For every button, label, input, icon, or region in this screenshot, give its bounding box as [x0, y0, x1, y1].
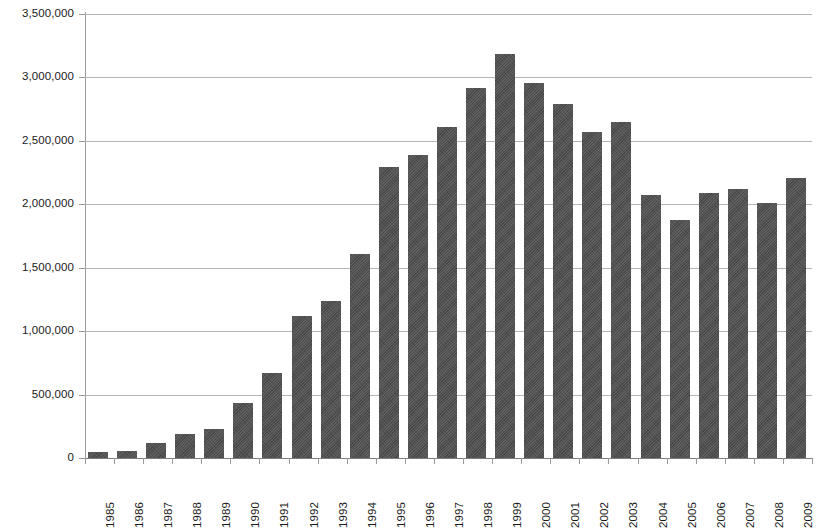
bar [292, 316, 312, 458]
y-axis-tick [79, 395, 85, 396]
bar [321, 301, 341, 458]
bar [233, 403, 253, 458]
y-axis-tick-label: 500,000 [0, 389, 74, 401]
bar [350, 254, 370, 458]
bar [495, 54, 515, 458]
x-axis-tick-label: 1999 [511, 502, 523, 532]
x-axis-tick-label: 2009 [802, 502, 814, 532]
bar [757, 203, 777, 458]
x-axis-tick-label: 2007 [744, 502, 756, 532]
plot-area [85, 14, 812, 458]
x-axis-tick-label: 2005 [686, 502, 698, 532]
y-axis-tick [79, 458, 85, 459]
bar [728, 189, 748, 458]
x-axis-tick-label: 2000 [540, 502, 552, 532]
x-axis-tick-label: 2006 [715, 502, 727, 532]
bar [670, 220, 690, 458]
x-axis-tick-label: 1991 [278, 502, 290, 532]
y-axis-tick-label: 1,500,000 [0, 262, 74, 274]
bar [786, 178, 806, 458]
x-axis-tick-label: 2003 [627, 502, 639, 532]
x-axis-tick-label: 1989 [220, 502, 232, 532]
x-axis-tick-label: 1990 [249, 502, 261, 532]
x-axis-tick-label: 1996 [424, 502, 436, 532]
x-axis-tick-label: 1985 [104, 502, 116, 532]
y-axis-tick-labels: 3,500,0003,000,0002,500,0002,000,0001,50… [0, 0, 74, 504]
x-axis-tick-label: 2002 [598, 502, 610, 532]
bar [437, 127, 457, 458]
x-axis-tick-label: 1992 [308, 502, 320, 532]
y-axis-tick-label: 2,000,000 [0, 198, 74, 210]
y-axis-tick [79, 14, 85, 15]
x-axis-tick-label: 2004 [657, 502, 669, 532]
x-axis-tick-label: 1994 [366, 502, 378, 532]
bar [117, 451, 137, 458]
bar [379, 167, 399, 458]
bar [611, 122, 631, 458]
x-axis-tick [812, 458, 813, 464]
bar [524, 83, 544, 458]
y-axis-tick-label: 2,500,000 [0, 135, 74, 147]
bar [146, 443, 166, 458]
x-axis-tick-label: 1987 [162, 502, 174, 532]
bar [699, 193, 719, 458]
x-axis-tick-label: 2008 [773, 502, 785, 532]
bar [175, 434, 195, 458]
x-axis-tick-label: 1998 [482, 502, 494, 532]
bar [466, 88, 486, 458]
bar [553, 104, 573, 458]
x-axis-tick-label: 2001 [569, 502, 581, 532]
y-axis-tick [79, 77, 85, 78]
y-axis-tick [79, 204, 85, 205]
y-axis-tick [79, 331, 85, 332]
y-axis-tick [79, 141, 85, 142]
bar [408, 155, 428, 458]
bar [641, 195, 661, 458]
y-axis-tick [79, 268, 85, 269]
bar [204, 429, 224, 458]
x-axis-tick-label: 1988 [191, 502, 203, 532]
bar [582, 132, 602, 458]
x-axis-tick-label: 1993 [337, 502, 349, 532]
x-axis-tick-label: 1997 [453, 502, 465, 532]
bar-series [85, 14, 812, 458]
x-axis-tick-label: 1995 [395, 502, 407, 532]
y-axis-tick-label: 3,500,000 [0, 8, 74, 20]
bar [262, 373, 282, 458]
x-axis-tick-label: 1986 [133, 502, 145, 532]
y-axis-tick-label: 0 [0, 452, 74, 464]
x-axis-tick-labels: 1985198619871988198919901991199219931994… [85, 464, 812, 504]
y-axis-tick-label: 1,000,000 [0, 325, 74, 337]
y-axis-tick-label: 3,000,000 [0, 71, 74, 83]
